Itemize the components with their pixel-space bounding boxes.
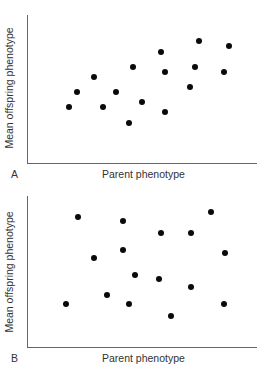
- data-point: [221, 301, 227, 307]
- data-point: [208, 209, 214, 215]
- y-axis-label: Mean offspring phenotype: [3, 211, 15, 332]
- y-axis: [27, 15, 28, 163]
- data-point: [75, 214, 81, 220]
- x-axis-label: Parent phenotype: [102, 352, 185, 364]
- data-point: [226, 43, 232, 49]
- data-point: [158, 230, 164, 236]
- data-point: [120, 218, 126, 224]
- y-axis-label: Mean offspring phenotype: [3, 27, 15, 148]
- data-point: [100, 104, 106, 110]
- chart-panel-b: Mean offspring phenotype Parent phenotyp…: [0, 184, 267, 368]
- x-axis: [27, 347, 257, 348]
- data-point: [188, 284, 194, 290]
- y-axis: [27, 196, 28, 347]
- data-point: [187, 84, 193, 90]
- data-point: [156, 276, 162, 282]
- data-point: [158, 49, 164, 55]
- x-axis: [27, 163, 257, 164]
- data-point: [104, 292, 110, 298]
- data-point: [120, 247, 126, 253]
- data-point: [162, 69, 168, 75]
- data-point: [74, 89, 80, 95]
- data-point: [63, 301, 69, 307]
- data-point: [91, 74, 97, 80]
- data-point: [91, 255, 97, 261]
- data-point: [126, 120, 132, 126]
- data-point: [113, 89, 119, 95]
- data-point: [66, 104, 72, 110]
- data-point: [192, 64, 198, 70]
- panel-letter: A: [11, 168, 18, 180]
- data-point: [188, 230, 194, 236]
- data-point: [130, 64, 136, 70]
- data-point: [162, 109, 168, 115]
- x-axis-label: Parent phenotype: [102, 168, 185, 180]
- chart-panel-a: Mean offspring phenotype Parent phenotyp…: [0, 0, 267, 184]
- data-point: [196, 38, 202, 44]
- data-point: [126, 301, 132, 307]
- data-point: [139, 99, 145, 105]
- data-point: [222, 250, 228, 256]
- data-point: [168, 313, 174, 319]
- data-point: [221, 69, 227, 75]
- data-point: [132, 272, 138, 278]
- panel-letter: B: [11, 352, 18, 364]
